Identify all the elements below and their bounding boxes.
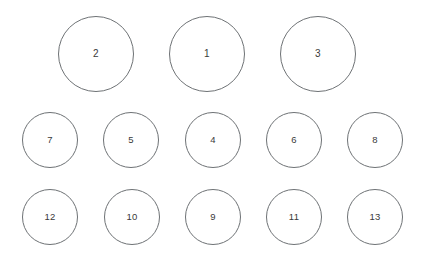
circle-node-9[interactable]: 9 (185, 189, 241, 245)
circle-node-13[interactable]: 13 (347, 189, 403, 245)
circle-label-13: 13 (370, 212, 381, 222)
circle-label-11: 11 (289, 212, 299, 222)
circle-node-12[interactable]: 12 (22, 189, 78, 245)
circle-label-9: 9 (210, 212, 215, 222)
circle-node-11[interactable]: 11 (266, 189, 322, 245)
circle-label-10: 10 (127, 212, 138, 222)
circle-diagram-canvas: 21375468121091113 (0, 0, 424, 259)
bottom-row: 121091113 (0, 0, 424, 259)
circle-label-12: 12 (45, 212, 56, 222)
circle-node-10[interactable]: 10 (104, 189, 160, 245)
